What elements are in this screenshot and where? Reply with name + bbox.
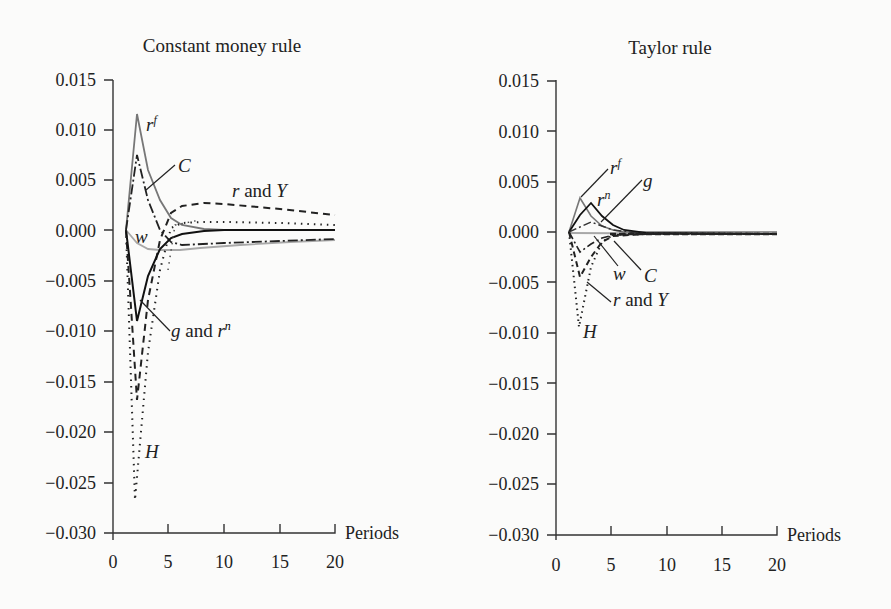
svg-text:−0.010: −0.010: [488, 323, 539, 343]
svg-text:−0.030: −0.030: [45, 523, 96, 543]
series-H: [569, 232, 777, 327]
svg-text:−0.025: −0.025: [488, 474, 539, 494]
svg-text:10: 10: [215, 552, 233, 572]
svg-text:0.010: 0.010: [56, 120, 97, 140]
right-chart-title: Taylor rule: [628, 37, 712, 58]
right-x-axis: [547, 526, 777, 535]
left-chart: Constant money rule 0.015 0.010 0.005 0.…: [45, 35, 399, 572]
svg-text:0.005: 0.005: [499, 172, 540, 192]
series-C: [126, 155, 335, 245]
svg-text:−0.025: −0.025: [45, 473, 96, 493]
series-rY: [569, 232, 777, 277]
svg-text:10: 10: [658, 555, 676, 575]
svg-text:w: w: [135, 226, 148, 247]
left-y-ticks: [104, 80, 113, 483]
svg-text:20: 20: [768, 555, 786, 575]
svg-text:5: 5: [607, 555, 616, 575]
svg-text:C: C: [644, 265, 657, 286]
svg-text:−0.020: −0.020: [488, 424, 539, 444]
svg-text:20: 20: [326, 552, 344, 572]
svg-text:0.000: 0.000: [56, 221, 97, 241]
svg-text:15: 15: [271, 552, 289, 572]
svg-text:0.000: 0.000: [499, 222, 540, 242]
svg-text:rf: rf: [146, 113, 158, 135]
series-w: [126, 230, 335, 250]
right-series-labels: rf rn g w C r and Y H: [582, 156, 670, 342]
svg-text:−0.030: −0.030: [488, 525, 539, 545]
svg-text:−0.005: −0.005: [45, 271, 96, 291]
svg-text:15: 15: [713, 555, 731, 575]
right-series: [569, 198, 777, 327]
left-chart-title: Constant money rule: [143, 35, 301, 56]
left-x-tick-labels: 0 5 10 15 20: [109, 552, 345, 572]
right-chart: Taylor rule 0.015 0.010 0.005 0.000 −0.0…: [488, 37, 841, 575]
right-x-tick-labels: 0 5 10 15 20: [552, 555, 787, 575]
svg-text:5: 5: [164, 552, 173, 572]
svg-text:H: H: [582, 321, 598, 342]
svg-text:H: H: [144, 441, 160, 462]
left-x-ticks: [168, 524, 280, 533]
right-x-ticks: [611, 526, 722, 535]
svg-text:rn: rn: [597, 188, 610, 210]
left-series-labels: rf C r and Y w g and rn H: [135, 113, 289, 462]
series-rf: [126, 114, 335, 230]
right-y-ticks: [547, 81, 556, 484]
svg-text:0.015: 0.015: [56, 70, 97, 90]
svg-text:−0.005: −0.005: [488, 273, 539, 293]
left-y-tick-labels: 0.015 0.010 0.005 0.000 −0.005 −0.010 −0…: [45, 70, 96, 543]
figure: Constant money rule 0.015 0.010 0.005 0.…: [0, 0, 891, 609]
series-rY: [126, 203, 335, 400]
left-x-axis: [104, 524, 335, 533]
left-x-axis-label: Periods: [345, 523, 399, 543]
svg-text:rf: rf: [610, 156, 622, 178]
svg-text:r and Y: r and Y: [613, 289, 670, 310]
svg-text:g and rn: g and rn: [171, 319, 231, 341]
svg-text:0.010: 0.010: [499, 122, 540, 142]
svg-text:0: 0: [109, 552, 118, 572]
svg-text:r and Y: r and Y: [232, 180, 289, 201]
svg-text:C: C: [178, 155, 191, 176]
svg-text:0.005: 0.005: [56, 170, 97, 190]
svg-text:−0.020: −0.020: [45, 422, 96, 442]
right-x-axis-label: Periods: [787, 525, 841, 545]
svg-text:0: 0: [552, 555, 561, 575]
svg-text:−0.010: −0.010: [45, 321, 96, 341]
svg-text:−0.015: −0.015: [488, 374, 539, 394]
svg-text:w: w: [613, 263, 626, 284]
svg-text:0.015: 0.015: [499, 71, 540, 91]
svg-text:g: g: [643, 170, 653, 191]
svg-text:−0.015: −0.015: [45, 372, 96, 392]
right-y-tick-labels: 0.015 0.010 0.005 0.000 −0.005 −0.010 −0…: [488, 71, 539, 545]
